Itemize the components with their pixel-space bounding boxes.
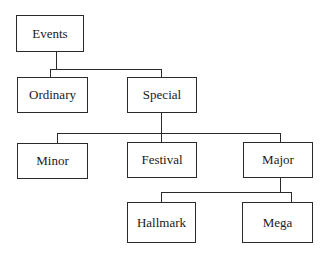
connector-major-down <box>280 178 281 192</box>
connector-to-special <box>161 69 162 77</box>
connector-level2-bar <box>57 133 281 134</box>
node-ordinary: Ordinary <box>17 77 88 113</box>
node-minor-label: Minor <box>36 153 69 169</box>
connector-to-mega <box>291 192 292 202</box>
node-mega: Mega <box>242 202 313 243</box>
node-minor: Minor <box>17 143 88 179</box>
connector-level3-bar <box>161 192 292 193</box>
connector-events-down <box>56 52 57 70</box>
connector-special-down <box>161 113 162 133</box>
node-special-label: Special <box>143 87 181 103</box>
node-hallmark: Hallmark <box>127 202 196 243</box>
connector-to-festival <box>161 133 162 142</box>
node-hallmark-label: Hallmark <box>137 215 186 231</box>
node-events: Events <box>16 15 84 52</box>
node-special: Special <box>127 77 197 113</box>
connector-level1-bar <box>50 69 162 70</box>
connector-to-ordinary <box>50 69 51 77</box>
node-mega-label: Mega <box>263 215 293 231</box>
node-ordinary-label: Ordinary <box>29 87 76 103</box>
node-major: Major <box>243 142 313 178</box>
connector-to-hallmark <box>161 192 162 202</box>
connector-to-minor <box>57 133 58 143</box>
connector-to-major <box>280 133 281 142</box>
node-events-label: Events <box>32 26 67 42</box>
node-major-label: Major <box>262 152 294 168</box>
node-festival: Festival <box>127 142 197 178</box>
node-festival-label: Festival <box>141 152 182 168</box>
